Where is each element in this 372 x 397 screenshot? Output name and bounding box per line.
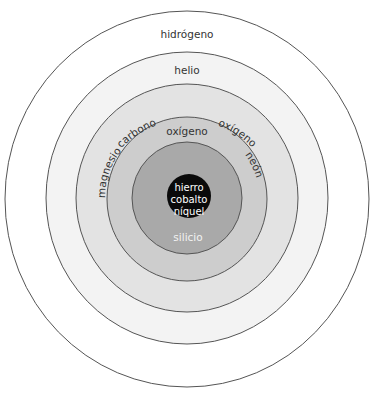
- label-silicio: silicio: [173, 231, 202, 243]
- label-oxigeno-inner: oxígeno: [166, 125, 207, 137]
- label-hidrogeno: hidrógeno: [161, 28, 214, 40]
- label-hierro: hierro: [174, 182, 203, 193]
- label-niquel: níquel: [174, 206, 205, 217]
- stellar-layers-diagram: hidrógeno helio carbono oxígeno magnesio…: [0, 0, 372, 397]
- label-cobalto: cobalto: [171, 194, 208, 205]
- label-helio: helio: [174, 64, 199, 76]
